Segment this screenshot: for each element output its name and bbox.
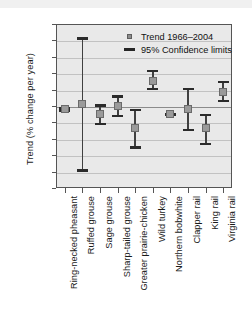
x-tick-mark — [135, 188, 136, 193]
gridline — [57, 173, 231, 174]
trend-marker — [184, 105, 192, 113]
trend-marker — [114, 102, 122, 110]
error-bar-lower-cap — [77, 169, 88, 171]
error-bar-upper-cap — [77, 37, 88, 39]
trend-marker — [131, 124, 139, 132]
error-bar-lower-cap — [147, 88, 158, 90]
x-tick-label: Virginia rail — [227, 196, 237, 242]
legend-label-trend: Trend 1966–2004 — [141, 32, 213, 42]
error-bar-lower-cap — [95, 123, 106, 125]
trend-marker — [96, 110, 104, 118]
x-tick-mark — [153, 188, 154, 193]
y-tick-mark — [52, 57, 56, 58]
trend-marker — [78, 100, 86, 108]
trend-marker — [166, 110, 174, 118]
x-tick-label: Wild turkey — [157, 196, 167, 242]
x-tick-mark — [118, 188, 119, 193]
error-bar-upper-cap — [95, 104, 106, 106]
x-tick-mark — [206, 188, 207, 193]
trend-marker — [61, 105, 69, 113]
legend-item-trend: Trend 1966–2004 — [122, 30, 232, 43]
error-bar-lower-cap — [183, 129, 194, 131]
y-axis-title: Trend (% change per year) — [25, 29, 35, 189]
x-tick-label: Sharp-tailed grouse — [122, 196, 132, 277]
legend-label-confidence: 95% Confidence limits — [141, 45, 232, 55]
trend-marker — [219, 88, 227, 96]
error-bar-upper-cap — [183, 88, 194, 90]
error-bar-upper-cap — [200, 114, 211, 116]
error-bar-lower-cap — [112, 115, 123, 117]
x-tick-label: Northern bobwhite — [174, 196, 184, 272]
x-tick-label: Greater prairie-chicken — [139, 196, 149, 291]
y-tick-mark — [52, 73, 56, 74]
error-bar-upper-cap — [112, 95, 123, 97]
square-marker-icon — [122, 34, 136, 39]
scan-band — [0, 0, 252, 8]
x-tick-label: Clapper rail — [192, 196, 202, 244]
x-tick-mark — [170, 188, 171, 193]
x-tick-label: Sage grouse — [104, 196, 114, 249]
x-tick-mark — [82, 188, 83, 193]
x-tick-label: Ruffed grouse — [86, 196, 96, 254]
trend-marker — [149, 77, 157, 85]
x-tick-label: Ring-necked pheasant — [69, 196, 79, 289]
x-tick-mark — [100, 188, 101, 193]
y-tick-mark — [52, 188, 56, 189]
x-tick-mark — [188, 188, 189, 193]
x-tick-mark — [65, 188, 66, 193]
y-tick-mark — [52, 172, 56, 173]
x-tick-mark — [223, 188, 224, 193]
y-tick-mark — [52, 106, 56, 107]
legend-item-confidence: 95% Confidence limits — [122, 43, 232, 56]
trend-marker — [202, 124, 210, 132]
legend: Trend 1966–2004 95% Confidence limits — [122, 30, 232, 56]
error-bar-upper-cap — [218, 81, 229, 83]
y-tick-mark — [52, 24, 56, 25]
line-marker-icon — [122, 48, 136, 51]
error-bar-lower-cap — [200, 143, 211, 145]
error-bar-upper-cap — [147, 70, 158, 72]
error-bar-lower-cap — [218, 100, 229, 102]
y-tick-mark — [52, 90, 56, 91]
x-tick-label: King rail — [210, 196, 220, 230]
error-bar-lower-cap — [130, 146, 141, 148]
y-tick-mark — [52, 155, 56, 156]
figure-canvas: Trend (% change per year) 2520151050−5−1… — [0, 0, 252, 321]
y-tick-mark — [52, 139, 56, 140]
y-tick-mark — [52, 122, 56, 123]
error-bar-upper-cap — [130, 109, 141, 111]
y-tick-mark — [52, 40, 56, 41]
